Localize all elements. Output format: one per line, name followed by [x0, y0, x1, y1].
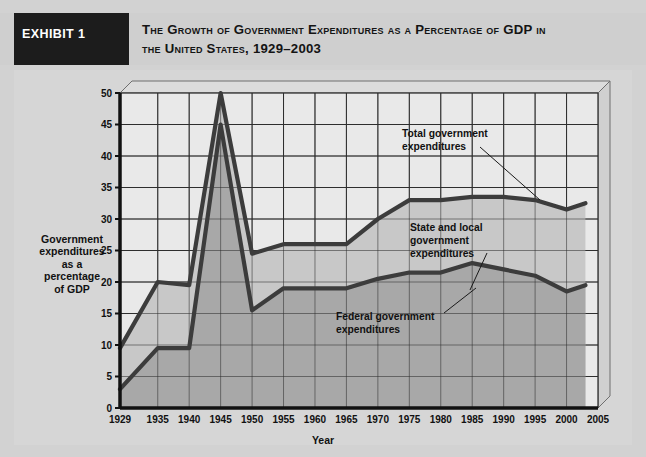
- y-axis-tick-label: 15: [101, 308, 113, 319]
- x-axis-tick-label: 1955: [272, 414, 295, 425]
- x-axis-tick-label: 1935: [147, 414, 170, 425]
- x-axis-tick-label: 2000: [555, 414, 578, 425]
- annotation-label-line: Federal government: [336, 311, 435, 322]
- annotation-label-line: expenditures: [336, 324, 400, 335]
- y-axis-tick-label: 20: [101, 277, 113, 288]
- annotation-label-line: expenditures: [402, 141, 466, 152]
- x-axis-tick-label: 1940: [178, 414, 201, 425]
- annotation-label-line: expenditures: [410, 248, 474, 259]
- x-axis-tick-label: 1975: [398, 414, 421, 425]
- y-axis-tick-label: 30: [101, 214, 113, 225]
- annotation-label-line: government: [410, 235, 470, 246]
- x-axis-tick-label: 2005: [587, 414, 610, 425]
- y-axis-tick-label: 5: [106, 371, 112, 382]
- exhibit-figure: EXHIBIT 1 The Growth of Government Expen…: [0, 0, 646, 457]
- y-axis-tick-label: 40: [101, 151, 113, 162]
- annotation-label-line: State and local: [410, 222, 483, 233]
- x-axis-tick-label: 1945: [210, 414, 233, 425]
- x-axis-tick-label: 1960: [304, 414, 327, 425]
- y-axis-tick-label: 35: [101, 182, 113, 193]
- plot-3d-right-face: [598, 81, 610, 408]
- chart-plot: 0510152025303540455019291935194019451950…: [0, 0, 646, 457]
- x-axis-tick-label: 1929: [109, 414, 132, 425]
- x-axis-tick-label: 1985: [461, 414, 484, 425]
- y-axis-tick-label: 0: [106, 403, 112, 414]
- y-axis-tick-label: 50: [101, 88, 113, 99]
- x-axis-tick-label: 1980: [430, 414, 453, 425]
- y-axis-tick-label: 10: [101, 340, 113, 351]
- x-axis-tick-label: 1965: [335, 414, 358, 425]
- x-axis-tick-label: 1970: [367, 414, 390, 425]
- y-axis-tick-label: 45: [101, 119, 113, 130]
- y-axis-tick-label: 25: [101, 245, 113, 256]
- x-axis-tick-label: 1990: [493, 414, 516, 425]
- x-axis-tick-label: 1995: [524, 414, 547, 425]
- x-axis-tick-label: 1950: [241, 414, 264, 425]
- annotation-label-line: Total government: [402, 128, 488, 139]
- plot-3d-top-face: [120, 81, 610, 93]
